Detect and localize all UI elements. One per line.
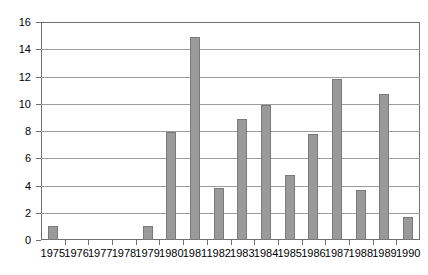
x-axis-tick-mark — [349, 240, 350, 245]
y-axis-tick-label: 8 — [25, 126, 31, 137]
bar — [214, 188, 224, 240]
x-axis-tick-label: 1986 — [301, 248, 325, 259]
bar — [308, 134, 318, 240]
y-axis-tick-label: 16 — [19, 17, 31, 28]
bar — [190, 37, 200, 240]
y-axis-tick-label: 2 — [25, 207, 31, 218]
x-axis-tick-mark — [373, 240, 374, 245]
x-axis-tick-label: 1988 — [349, 248, 373, 259]
x-axis-tick-mark — [183, 240, 184, 245]
x-axis-tick-label: 1983 — [230, 248, 254, 259]
y-axis-tick-label: 10 — [19, 98, 31, 109]
bar — [143, 226, 153, 240]
x-axis-tick-label: 1976 — [64, 248, 88, 259]
x-axis-tick-label: 1987 — [325, 248, 349, 259]
bar — [237, 119, 247, 240]
x-axis-tick-label: 1985 — [277, 248, 301, 259]
y-axis-tick-label: 0 — [25, 235, 31, 246]
bar — [285, 175, 295, 240]
x-axis-tick-label: 1978 — [112, 248, 136, 259]
bar — [166, 132, 176, 240]
x-axis-tick-label: 1989 — [372, 248, 396, 259]
x-axis-tick-mark — [396, 240, 397, 245]
bar — [332, 79, 342, 240]
y-axis-tick-label: 14 — [19, 44, 31, 55]
x-axis-tick-mark — [325, 240, 326, 245]
y-axis-tick-label: 4 — [25, 180, 31, 191]
x-axis-tick-label: 1981 — [183, 248, 207, 259]
bar-chart: 0246810121416 19751976197719781979198019… — [0, 0, 428, 275]
bar — [48, 226, 58, 240]
x-axis-tick-label: 1982 — [206, 248, 230, 259]
y-axis-tick-label: 6 — [25, 153, 31, 164]
y-axis-tick-label: 12 — [19, 71, 31, 82]
bar-series — [41, 22, 420, 240]
x-axis-tick-mark — [302, 240, 303, 245]
x-axis-tick-mark — [88, 240, 89, 245]
x-axis-tick-label: 1977 — [88, 248, 112, 259]
x-axis-tick-label: 1980 — [159, 248, 183, 259]
x-axis-tick-label: 1979 — [135, 248, 159, 259]
x-axis-tick-label: 1975 — [41, 248, 65, 259]
x-axis: 1975197619771978197919801981198219831984… — [41, 240, 420, 275]
x-axis-tick-mark — [159, 240, 160, 245]
y-axis: 0246810121416 — [0, 0, 41, 275]
bar — [261, 105, 271, 240]
x-axis-tick-label: 1990 — [396, 248, 420, 259]
bar — [403, 217, 413, 240]
x-axis-tick-mark — [136, 240, 137, 245]
x-axis-tick-mark — [112, 240, 113, 245]
x-axis-tick-mark — [278, 240, 279, 245]
x-axis-tick-mark — [65, 240, 66, 245]
bar — [356, 190, 366, 240]
x-axis-tick-mark — [207, 240, 208, 245]
x-axis-tick-mark — [254, 240, 255, 245]
x-axis-tick-mark — [231, 240, 232, 245]
x-axis-tick-label: 1984 — [254, 248, 278, 259]
bar — [379, 94, 389, 240]
